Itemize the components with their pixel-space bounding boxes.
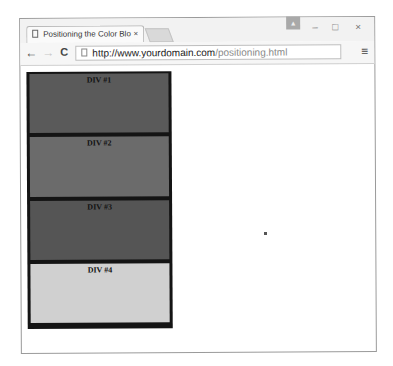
address-bar[interactable]: http://www.yourdomain.com/positioning.ht… (75, 44, 341, 60)
tab-positioning[interactable]: Positioning the Color Blo × (26, 25, 144, 43)
url-path: /positioning.html (215, 47, 287, 58)
back-button[interactable]: ← (25, 46, 37, 60)
url-host: http://www.yourdomain.com (92, 47, 215, 59)
mouse-cursor-icon (264, 232, 267, 235)
title-bar: Positioning the Color Blo × ▲ – □ × (20, 17, 374, 43)
color-block-container: DIV #1 DIV #2 DIV #3 DIV #4 (26, 71, 172, 329)
div-block-1: DIV #1 (29, 73, 168, 133)
maximize-button[interactable]: □ (332, 21, 338, 32)
tab-close-icon[interactable]: × (134, 29, 139, 38)
page-icon (32, 30, 38, 38)
page-icon (81, 49, 87, 57)
close-button[interactable]: × (355, 21, 361, 32)
div-block-2: DIV #2 (30, 136, 169, 197)
menu-icon[interactable]: ≡ (361, 44, 368, 58)
browser-window: Positioning the Color Blo × ▲ – □ × ← → … (19, 16, 377, 354)
tab-title: Positioning the Color Blo (43, 29, 131, 38)
forward-button[interactable]: → (42, 46, 54, 60)
user-icon[interactable]: ▲ (286, 16, 300, 29)
div-block-4: DIV #4 (30, 263, 169, 323)
toolbar: ← → C http://www.yourdomain.com/position… (20, 41, 374, 66)
reload-button[interactable]: C (60, 46, 68, 58)
minimize-button[interactable]: – (312, 21, 318, 32)
div-block-3: DIV #3 (30, 200, 169, 260)
new-tab-button[interactable] (145, 28, 174, 42)
